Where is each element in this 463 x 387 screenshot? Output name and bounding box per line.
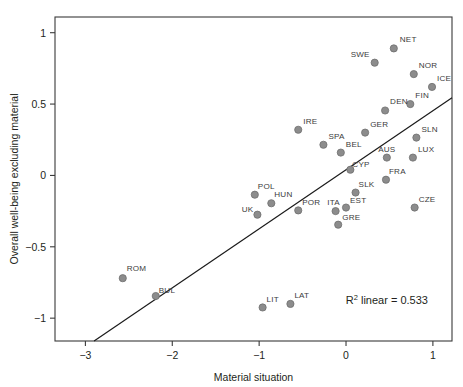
point-label-fra: FRA (389, 167, 406, 176)
data-point-lit (259, 304, 266, 311)
data-point-rom (119, 275, 126, 282)
x-tick-label: 0 (343, 349, 349, 361)
y-tick-label: −0.5 (25, 241, 46, 253)
point-label-ger: GER (370, 120, 388, 129)
point-label-fin: FIN (415, 91, 429, 100)
data-point-pol (251, 191, 258, 198)
plot-border (55, 17, 452, 341)
data-point-est (342, 204, 349, 211)
r-squared-label: R2 linear = 0.533 (346, 293, 428, 306)
y-tick-label: −1 (34, 312, 46, 324)
data-point-sln (413, 134, 420, 141)
x-tick-label: −2 (166, 349, 178, 361)
point-label-den: DEN (390, 97, 408, 106)
y-axis-title: Overall well-being excluding material (8, 94, 20, 265)
data-points (119, 45, 435, 311)
data-point-aus (383, 154, 390, 161)
data-point-lux (409, 154, 416, 161)
point-label-rom: ROM (127, 264, 147, 273)
axis-tick-labels: −3−2−10110.50−0.5−1 (25, 27, 436, 361)
point-label-lit: LIT (267, 295, 279, 304)
data-point-net (390, 45, 397, 52)
y-tick-label: 0.5 (31, 98, 46, 110)
point-label-bul: BUL (159, 286, 176, 295)
point-label-ire: IRE (303, 117, 317, 126)
data-point-ire (295, 126, 302, 133)
point-label-cze: CZE (419, 195, 436, 204)
data-point-swe (371, 59, 378, 66)
point-label-sln: SLN (421, 125, 437, 134)
data-point-spa (320, 141, 327, 148)
point-label-aus: AUS (378, 145, 396, 154)
data-point-bel (337, 149, 344, 156)
point-label-net: NET (400, 35, 417, 44)
data-point-den (382, 107, 389, 114)
point-label-por: POR (302, 198, 320, 207)
point-label-ita: ITA (327, 198, 340, 207)
point-label-swe: SWE (351, 50, 370, 59)
point-label-hun: HUN (274, 190, 292, 199)
r-squared-annotation: R2 linear = 0.533 (346, 293, 428, 306)
x-axis-title: Material situation (214, 371, 294, 383)
point-label-bel: BEL (346, 140, 362, 149)
scatter-plot-figure: −3−2−10110.50−0.5−1 NETSWENORICEFINDENIR… (0, 0, 463, 387)
x-tick-label: 1 (430, 349, 436, 361)
y-tick-label: 1 (40, 27, 46, 39)
point-label-gre: GRE (342, 213, 361, 222)
point-label-spa: SPA (328, 132, 345, 141)
point-label-pol: POL (258, 182, 275, 191)
plot-frame (55, 17, 452, 341)
point-label-lux: LUX (418, 145, 435, 154)
data-point-hun (268, 200, 275, 207)
data-point-nor (410, 70, 417, 77)
chart-canvas: −3−2−10110.50−0.5−1 NETSWENORICEFINDENIR… (0, 0, 463, 387)
x-tick-label: −3 (79, 349, 91, 361)
data-point-lat (287, 300, 294, 307)
point-label-cyp: CYP (352, 160, 369, 169)
point-label-est: EST (350, 196, 366, 205)
point-label-lat: LAT (294, 291, 309, 300)
y-tick-label: 0 (40, 169, 46, 181)
data-point-ice (428, 83, 435, 90)
data-point-uk (254, 211, 261, 218)
data-point-labels: NETSWENORICEFINDENIREGERSLNSPABELAUSLUXC… (127, 35, 452, 304)
point-label-ice: ICE (437, 74, 451, 83)
data-point-por (295, 207, 302, 214)
point-label-uk: UK (242, 205, 254, 214)
x-tick-label: −1 (253, 349, 265, 361)
point-label-slk: SLK (359, 180, 375, 189)
point-label-nor: NOR (419, 61, 438, 70)
data-point-ita (332, 208, 339, 215)
data-point-fra (382, 176, 389, 183)
data-point-cze (411, 204, 418, 211)
axis-titles: Material situationOverall well-being exc… (8, 94, 293, 384)
data-point-ger (362, 129, 369, 136)
data-point-gre (335, 221, 342, 228)
